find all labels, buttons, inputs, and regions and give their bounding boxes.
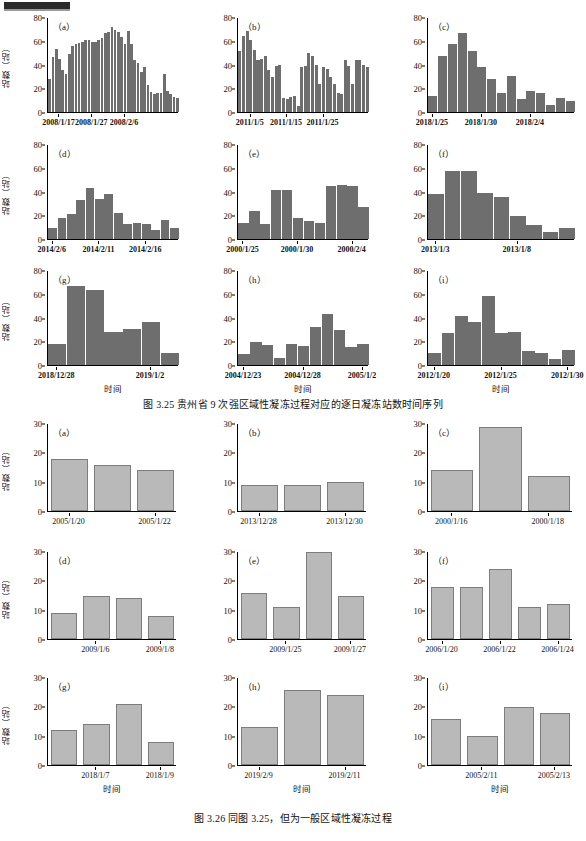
bar (55, 49, 58, 112)
x-tick-mark (160, 641, 161, 644)
bar (173, 97, 176, 112)
bar (253, 50, 256, 112)
panel-tag: （d） (53, 554, 76, 567)
x-tick-label: 2009/1/8 (146, 645, 174, 654)
y-tick-mark (232, 65, 235, 66)
bar (52, 57, 55, 112)
y-tick-label: 80 (34, 141, 43, 150)
bar (275, 66, 278, 112)
y-tick-mark (42, 145, 45, 146)
y-axis-label: 站数（站） (0, 18, 14, 113)
bar (431, 719, 461, 765)
bar (148, 742, 174, 765)
y-tick-mark (422, 216, 425, 217)
bar (508, 332, 521, 365)
bar (58, 59, 61, 112)
y-tick-mark (422, 41, 425, 42)
y-tick-mark (42, 18, 45, 19)
bar (163, 74, 166, 112)
y-tick-mark (42, 581, 45, 582)
y-tick-label: 20 (34, 212, 43, 221)
bar (315, 65, 318, 112)
bar (51, 613, 77, 639)
y-axis-label: 站数（站） (0, 271, 14, 366)
x-tick-mark (500, 641, 501, 644)
y-axis-ticks: 0102030 (403, 678, 425, 766)
bar (114, 30, 117, 112)
x-tick-mark (58, 114, 59, 117)
y-tick-label: 20 (414, 85, 423, 94)
y-tick-label: 10 (224, 478, 233, 487)
bar (282, 98, 285, 112)
bar (71, 46, 74, 112)
y-tick-label: 60 (224, 38, 233, 47)
panel-fig-3-25-5: 020406080（e）2000/1/252000/1/302000/2/4 (190, 145, 380, 270)
bar (130, 44, 133, 112)
bar (256, 60, 259, 112)
panel-fig-3-26-4: 站数（站）0102030（d）2009/1/62009/1/8 (0, 552, 190, 670)
bar (137, 63, 140, 112)
y-tick-mark (232, 294, 235, 295)
y-tick-label: 20 (414, 212, 423, 221)
y-tick-label: 20 (414, 338, 423, 347)
y-tick-mark (232, 512, 235, 513)
bar (94, 465, 131, 511)
bar (133, 60, 136, 112)
y-axis-ticks: 0102030 (23, 424, 45, 512)
bar (271, 77, 274, 112)
x-tick-label: 2008/2/6 (110, 118, 138, 127)
y-tick-mark (42, 482, 45, 483)
x-tick-label: 2005/2/11 (465, 771, 497, 780)
y-tick-label: 60 (224, 291, 233, 300)
x-tick-mark (98, 241, 99, 244)
y-tick-mark (42, 65, 45, 66)
bar (67, 286, 85, 365)
panel-tag: （c） (433, 20, 455, 33)
y-axis-label-text: 站数（站） (1, 170, 13, 215)
x-tick-label: 2013/12/30 (326, 517, 362, 526)
x-tick-mark (362, 367, 363, 370)
y-tick-label: 80 (414, 267, 423, 276)
y-tick-label: 20 (224, 85, 233, 94)
y-axis-label: 站数（站） (0, 145, 14, 240)
x-tick-mark (145, 241, 146, 244)
bar (345, 347, 356, 365)
bar (260, 59, 263, 112)
x-tick-label: 2005/1/22 (138, 517, 170, 526)
y-tick-mark (422, 240, 425, 241)
bar (477, 67, 486, 112)
y-tick-mark (232, 766, 235, 767)
bar (271, 190, 281, 239)
bar (104, 332, 122, 365)
x-tick-mark (52, 241, 53, 244)
bar (357, 344, 368, 365)
bar (448, 44, 457, 112)
x-tick-label: 2018/2/4 (516, 118, 544, 127)
bar (307, 53, 310, 112)
bar (249, 40, 252, 112)
bar (326, 69, 329, 112)
bar (528, 476, 570, 511)
bar (161, 353, 179, 365)
x-tick-mark (124, 114, 125, 117)
x-tick-label: 2008/1/27 (75, 118, 107, 127)
panel-fig-3-26-3: 0102030（c）2000/1/162000/1/18 (380, 424, 586, 542)
panel-fig-3-25-4: 站数（站）020406080（d）2014/2/62014/2/112014/2… (0, 145, 190, 270)
x-tick-mark (548, 513, 549, 516)
y-tick-mark (422, 640, 425, 641)
x-tick-label: 2018/12/28 (38, 371, 74, 380)
y-tick-mark (232, 318, 235, 319)
y-tick-label: 20 (224, 338, 233, 347)
panel-tag: （e） (243, 554, 265, 567)
bar (278, 65, 281, 112)
bar (51, 459, 88, 511)
bar (267, 70, 270, 112)
bar (334, 330, 345, 365)
y-tick-label: 40 (414, 61, 423, 70)
y-axis-label: 站数（站） (0, 678, 14, 766)
bar (431, 470, 473, 511)
y-tick-label: 30 (34, 548, 43, 557)
y-tick-mark (422, 610, 425, 611)
x-tick-label: 2008/1/17 (42, 118, 74, 127)
panel-tag: （g） (53, 273, 76, 286)
